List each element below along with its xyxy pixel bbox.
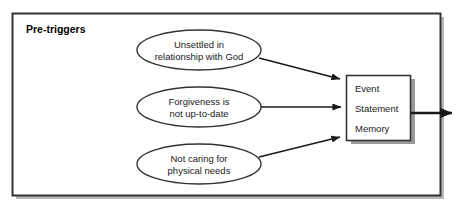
ellipse-unsettled-line2: relationship with God bbox=[155, 51, 244, 62]
target-box-line-memory: Memory bbox=[355, 123, 390, 134]
ellipse-physical-needs[interactable] bbox=[137, 144, 261, 184]
ellipse-unsettled[interactable] bbox=[137, 30, 261, 70]
target-box-line-event: Event bbox=[355, 83, 380, 94]
frame-title: Pre-triggers bbox=[26, 23, 86, 35]
pre-triggers-diagram: Pre-triggers Unsettled in relationship w… bbox=[0, 0, 458, 212]
ellipse-unsettled-line1: Unsettled in bbox=[174, 39, 224, 50]
ellipse-physical-needs-line2: physical needs bbox=[168, 165, 231, 176]
ellipse-physical-needs-line1: Not caring for bbox=[170, 153, 227, 164]
ellipse-forgiveness-line1: Forgiveness is bbox=[168, 96, 229, 107]
ellipse-forgiveness[interactable] bbox=[137, 87, 261, 127]
diagram-canvas: Pre-triggers Unsettled in relationship w… bbox=[0, 0, 458, 212]
ellipse-forgiveness-line2: not up-to-date bbox=[169, 108, 228, 119]
target-box-line-statement: Statement bbox=[355, 103, 399, 114]
